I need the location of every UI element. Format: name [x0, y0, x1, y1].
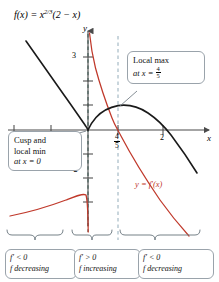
callout-cusp-line2: local min — [14, 146, 76, 157]
sign-box-2-derivative: f′ < 0 — [143, 253, 209, 264]
y-tick-label-3: 3 — [72, 52, 76, 60]
callout-local-max-line1: Local max — [133, 55, 199, 66]
callout-cusp-line1: Cusp and — [14, 135, 76, 146]
callout-local-max-fraction: 4 5 — [156, 66, 161, 80]
sign-box-0-behavior: f decreasing — [10, 264, 72, 275]
f-curve-right — [88, 105, 197, 173]
x-tick-label-four-fifths: 4 5 — [114, 133, 120, 149]
sign-box-decreasing-left: f′ < 0 f decreasing — [5, 249, 77, 279]
sign-box-1-derivative: f′ > 0 — [79, 253, 136, 264]
leader-line-local-max — [120, 91, 137, 106]
sign-box-2-behavior: f decreasing — [143, 264, 209, 275]
callout-local-max-prefix: at x = — [133, 68, 153, 78]
x-tick-frac-denominator: 5 — [114, 142, 120, 150]
fprime-curve-left — [10, 194, 88, 232]
sign-box-1-behavior: f increasing — [79, 264, 136, 275]
fprime-curve-label: y = f′(x) — [135, 180, 162, 189]
callout-local-max: Local max at x = 4 5 — [127, 51, 205, 84]
function-label-factor: (2 − x) — [52, 9, 80, 20]
x-tick-label-2: 2 — [160, 134, 164, 142]
callout-frac-denominator: 5 — [156, 73, 161, 80]
y-axis-label: y — [83, 24, 87, 33]
figure-canvas: f(x) = x2/3(2 − x) y x 3 −2 2 4 5 y = f′… — [0, 0, 219, 282]
f-curve-left — [26, 41, 88, 130]
x-axis-label: x — [207, 134, 211, 143]
function-label-lhs: f(x) = — [14, 9, 37, 20]
interval-braces — [7, 230, 200, 240]
callout-local-max-line2: at x = 4 5 — [133, 66, 199, 80]
sign-box-increasing-middle: f′ > 0 f increasing — [74, 249, 141, 279]
sign-box-0-derivative: f′ < 0 — [10, 253, 72, 264]
callout-cusp-local-min: Cusp and local min at x = 0 — [8, 131, 82, 171]
sign-box-decreasing-right: f′ < 0 f decreasing — [138, 249, 214, 279]
callout-cusp-line3: at x = 0 — [14, 156, 76, 167]
function-label: f(x) = x2/3(2 − x) — [14, 9, 80, 20]
